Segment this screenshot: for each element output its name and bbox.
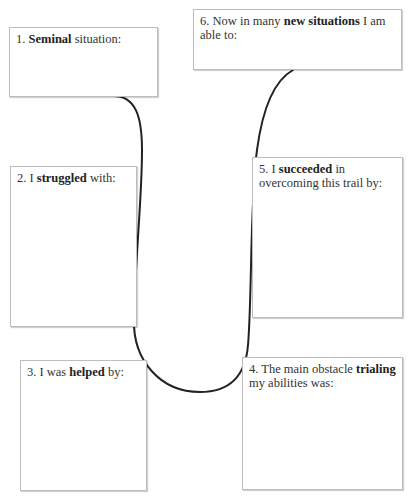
step-2-post: with: bbox=[87, 171, 116, 185]
step-3-pre: I was bbox=[40, 365, 70, 379]
step-5-number: 5. bbox=[259, 162, 268, 176]
step-5-keyword: succeeded bbox=[279, 162, 332, 176]
step-1-post: situation: bbox=[72, 32, 122, 46]
step-1-box: 1. Seminal situation: bbox=[9, 27, 158, 97]
step-2-pre: I bbox=[30, 171, 37, 185]
step-2-box: 2. I struggled with: bbox=[10, 166, 137, 327]
step-4-pre: The main obstacle bbox=[261, 362, 356, 376]
step-2-keyword: struggled bbox=[37, 171, 87, 185]
step-3-box: 3. I was helped by: bbox=[20, 360, 147, 491]
step-6-keyword: new situations bbox=[284, 14, 360, 28]
step-2-number: 2. bbox=[17, 171, 26, 185]
step-4-post: my abilities was: bbox=[249, 376, 334, 390]
step-4-box: 4. The main obstacle trialing my abiliti… bbox=[242, 357, 403, 490]
step-6-box: 6. Now in many new situations I am able … bbox=[193, 9, 402, 70]
step-1-number: 1. bbox=[16, 32, 25, 46]
step-6-pre: Now in many bbox=[213, 14, 284, 28]
step-4-keyword: trialing bbox=[356, 362, 396, 376]
step-6-number: 6. bbox=[200, 14, 209, 28]
step-3-post: by: bbox=[105, 365, 124, 379]
step-3-keyword: helped bbox=[69, 365, 104, 379]
step-3-number: 3. bbox=[27, 365, 36, 379]
step-5-pre: I bbox=[272, 162, 279, 176]
step-4-number: 4. bbox=[249, 362, 258, 376]
step-5-box: 5. I succeeded in overcoming this trail … bbox=[252, 157, 403, 318]
step-1-keyword: Seminal bbox=[29, 32, 72, 46]
